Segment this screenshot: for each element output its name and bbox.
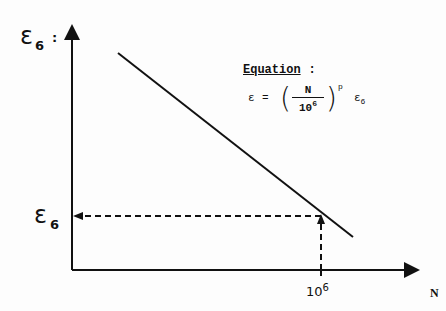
x-marker-exponent: 6 [323,282,329,293]
y-marker-symbol: ε [34,201,47,229]
equation-tail-subscript: 6 [361,97,366,106]
denominator-exponent: 6 [312,99,317,108]
equation-lhs: ε [248,92,255,104]
right-paren: ) [326,82,337,115]
y-axis-subscript: 6 [35,38,44,53]
y-axis-label: ε6: [20,24,57,48]
equation-fraction: N 106 [292,84,324,114]
x-axis-arrow-icon [404,262,420,278]
equation-title: Equation: [243,59,316,77]
y-axis-colon: : [52,30,57,45]
y-marker-label: ε6 [34,203,56,227]
y-axis-symbol: ε [20,22,33,50]
strain-life-line [118,53,353,237]
diagram-canvas: ε6: ε6 106 N Equation: ε = ( N 106 ) p ε… [0,0,446,311]
equation-tail: ε6 [354,92,365,106]
fraction-bar [292,97,324,98]
x-marker-label: 106 [306,282,329,299]
equation-equals: = [262,92,269,104]
left-paren: ( [280,82,291,115]
y-marker-subscript: 6 [50,217,59,232]
x-marker-base: 10 [306,284,323,299]
left-arrow-icon [73,212,83,220]
equation-tail-symbol: ε [354,92,361,104]
equation-title-text: Equation [243,63,301,77]
diagram-graphics [0,0,446,311]
equation-exponent-p: p [338,82,343,91]
fraction-numerator: N [292,84,324,96]
denominator-base: 10 [299,102,312,114]
y-axis-arrow-icon [64,24,80,40]
x-axis-label: N [430,286,439,301]
equation-title-colon: : [309,63,316,77]
